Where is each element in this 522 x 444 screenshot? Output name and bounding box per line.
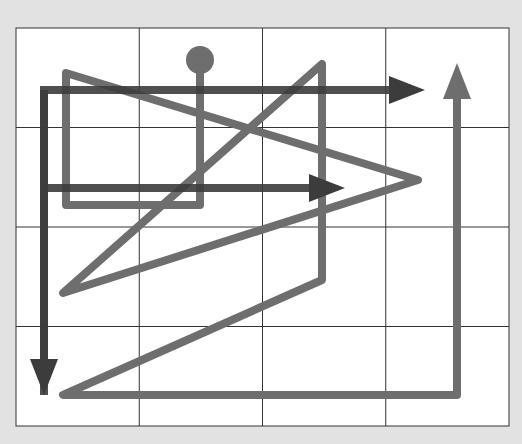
path-diagram: [0, 0, 522, 444]
